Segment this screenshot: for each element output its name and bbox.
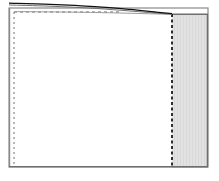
- sponge-zone: [172, 14, 208, 167]
- figure-container: [0, 0, 219, 181]
- schematic-diagram: [0, 0, 219, 181]
